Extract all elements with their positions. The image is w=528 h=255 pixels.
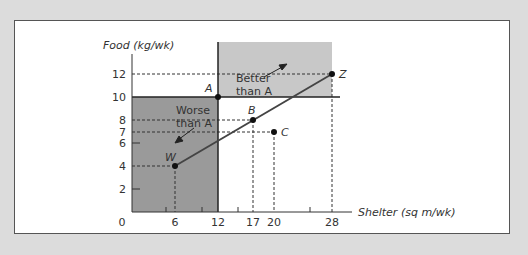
point-z-label: Z: [338, 68, 347, 81]
point-c-label: C: [281, 126, 289, 139]
point-a: [215, 94, 221, 100]
origin-label: 0: [119, 216, 126, 229]
better-label-2: than A: [236, 85, 272, 98]
x-tick-6: 6: [172, 216, 179, 229]
x-tick-28: 28: [325, 216, 339, 229]
preference-diagram: Food (kg/wk) Shelter (sq m/wk) Better th…: [0, 0, 528, 255]
point-w-label: W: [165, 151, 177, 164]
y-tick-12: 12: [112, 68, 126, 81]
x-tick-17: 17: [246, 216, 260, 229]
point-b: [250, 117, 256, 123]
y-tick-10: 10: [112, 91, 126, 104]
point-a-label: A: [204, 82, 213, 95]
point-c: [271, 129, 277, 135]
y-tick-4: 4: [119, 160, 126, 173]
better-label-1: Better: [236, 72, 271, 85]
x-tick-12: 12: [211, 216, 225, 229]
y-tick-6: 6: [119, 137, 126, 150]
worse-label-2: than A: [176, 117, 212, 130]
point-z: [329, 71, 335, 77]
point-b-label: B: [248, 104, 256, 117]
x-axis-label: Shelter (sq m/wk): [358, 206, 455, 219]
worse-label-1: Worse: [176, 104, 210, 117]
y-axis-label: Food (kg/wk): [103, 39, 174, 52]
x-tick-20: 20: [267, 216, 281, 229]
y-tick-2: 2: [119, 183, 126, 196]
